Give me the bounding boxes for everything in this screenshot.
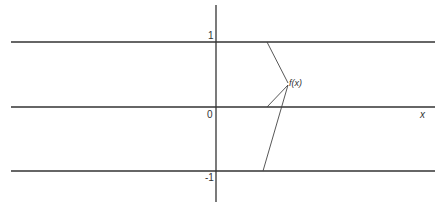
function-label: f(x) xyxy=(289,79,302,88)
diagram-canvas xyxy=(0,0,435,217)
x-axis-label: x xyxy=(420,110,425,120)
y-tick-label-neg1: -1 xyxy=(205,173,214,183)
y-tick-label-1: 1 xyxy=(208,31,214,41)
leader-to-y-1 xyxy=(267,42,288,83)
y-tick-label-0: 0 xyxy=(207,110,213,120)
